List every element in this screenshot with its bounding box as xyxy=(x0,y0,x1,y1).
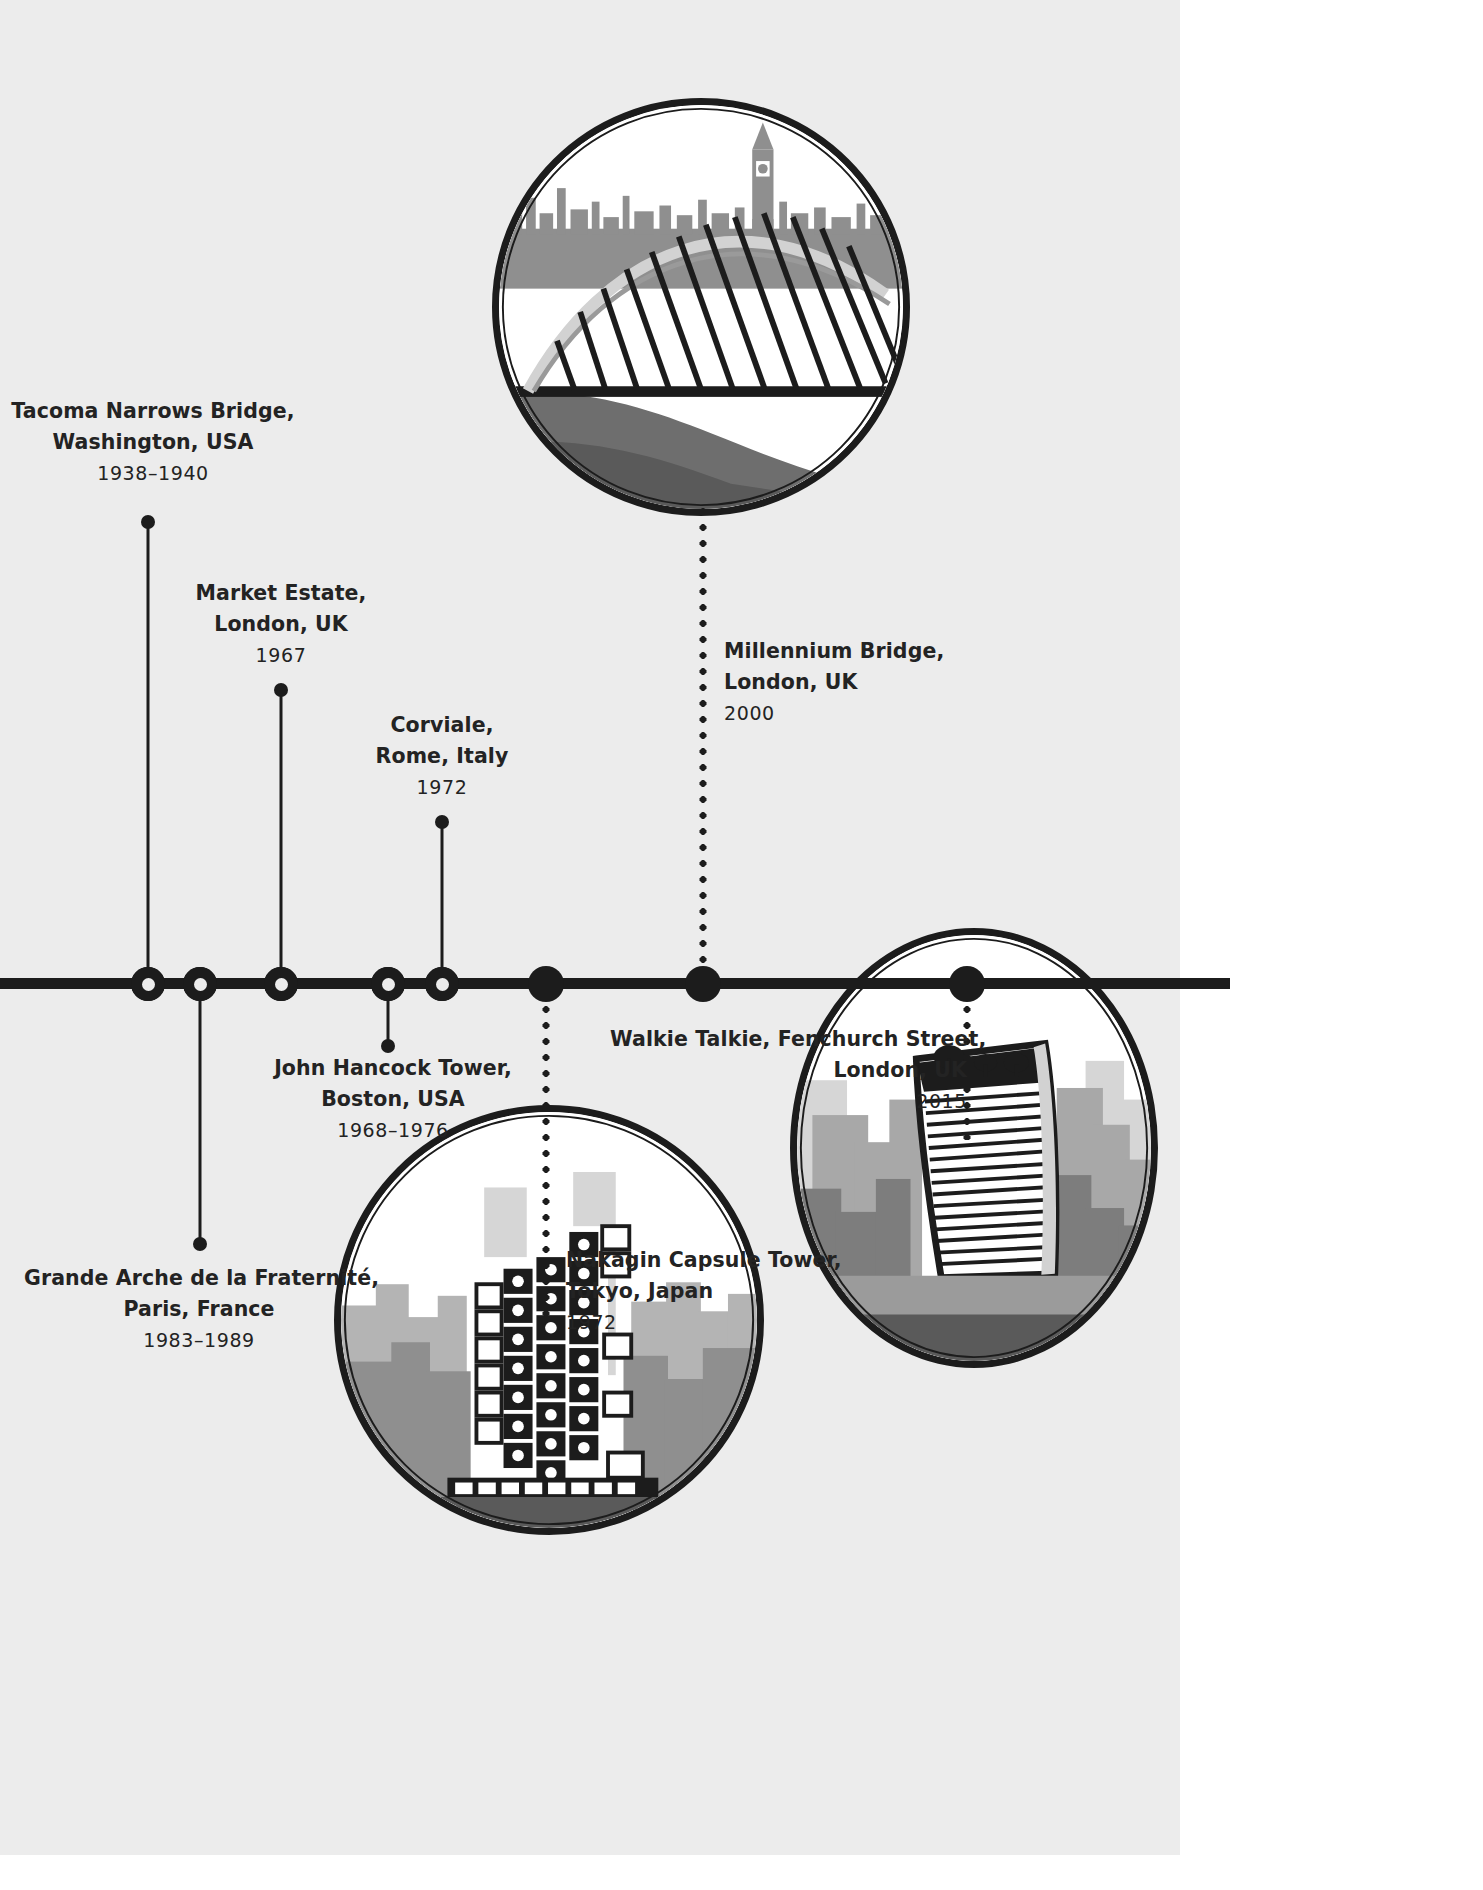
entry-name-line1: John Hancock Tower, xyxy=(253,1053,533,1084)
entry-year: 2000 xyxy=(724,698,1054,728)
entry-year: 1983–1989 xyxy=(24,1325,374,1355)
connector-tacoma-narrows-bridge xyxy=(147,520,150,984)
entry-year: 1972 xyxy=(566,1307,866,1337)
connector-nakagin-capsule-tower xyxy=(543,990,550,1320)
entry-name-line1: Walkie Talkie, Fenchurch Street, xyxy=(610,1024,967,1055)
connector-market-estate xyxy=(280,688,283,984)
entry-name-line2: Tokyo, Japan xyxy=(566,1276,866,1307)
entry-name-line2: London, UK xyxy=(724,667,1054,698)
label-john-hancock-tower: John Hancock Tower, Boston, USA 1968–197… xyxy=(253,1053,533,1145)
connector-corviale xyxy=(441,820,444,984)
entry-name-line2: Rome, Italy xyxy=(317,741,567,772)
entry-name-line2: Boston, USA xyxy=(253,1084,533,1115)
connector-endpoint-john-hancock-tower xyxy=(381,1039,395,1053)
marker-millennium-bridge[interactable] xyxy=(685,966,721,1002)
label-market-estate: Market Estate, London, UK 1967 xyxy=(151,578,411,670)
entry-year: 1968–1976 xyxy=(253,1115,533,1145)
timeline-axis-end xyxy=(1216,978,1230,989)
marker-market-estate[interactable] xyxy=(264,967,298,1001)
marker-nakagin-capsule-tower[interactable] xyxy=(528,966,564,1002)
connector-endpoint-grande-arche-de-la-fraternite xyxy=(193,1237,207,1251)
label-corviale: Corviale, Rome, Italy 1972 xyxy=(317,710,567,802)
entry-year: 1938–1940 xyxy=(8,458,298,488)
entry-name-line1: Nakagin Capsule Tower, xyxy=(566,1245,866,1276)
photo-millennium-bridge xyxy=(492,98,910,516)
label-walkie-talkie: Walkie Talkie, Fenchurch Street, London,… xyxy=(610,1024,967,1116)
entry-year: 1972 xyxy=(317,772,567,802)
entry-name-line1: Grande Arche de la Fraternité, xyxy=(24,1263,374,1294)
entry-name-line2: London, UK xyxy=(610,1055,967,1086)
marker-john-hancock-tower[interactable] xyxy=(371,967,405,1001)
entry-year: 2015 xyxy=(610,1086,967,1116)
connector-endpoint-tacoma-narrows-bridge xyxy=(141,515,155,529)
label-tacoma-narrows-bridge: Tacoma Narrows Bridge, Washington, USA 1… xyxy=(8,396,298,488)
entry-name-line1: Market Estate, xyxy=(151,578,411,609)
marker-walkie-talkie[interactable] xyxy=(949,966,985,1002)
marker-tacoma-narrows-bridge[interactable] xyxy=(131,967,165,1001)
poster-right-margin xyxy=(1180,0,1483,1890)
marker-grande-arche-de-la-fraternite[interactable] xyxy=(183,967,217,1001)
connector-endpoint-market-estate xyxy=(274,683,288,697)
connector-millennium-bridge xyxy=(700,508,707,986)
timeline-infographic: Tacoma Narrows Bridge, Washington, USA 1… xyxy=(0,0,1483,1890)
label-millennium-bridge: Millennium Bridge, London, UK 2000 xyxy=(724,636,1054,728)
label-nakagin-capsule-tower: Nakagin Capsule Tower, Tokyo, Japan 1972 xyxy=(566,1245,866,1337)
connector-endpoint-corviale xyxy=(435,815,449,829)
entry-name-line1: Millennium Bridge, xyxy=(724,636,1054,667)
entry-name-line1: Tacoma Narrows Bridge, xyxy=(8,396,298,427)
poster-bottom-margin xyxy=(0,1855,1483,1890)
connector-grande-arche-de-la-fraternite xyxy=(199,984,202,1246)
label-grande-arche-de-la-fraternite: Grande Arche de la Fraternité, Paris, Fr… xyxy=(24,1263,374,1355)
entry-name-line2: Paris, France xyxy=(24,1294,374,1325)
entry-year: 1967 xyxy=(151,640,411,670)
entry-name-line1: Corviale, xyxy=(317,710,567,741)
entry-name-line2: London, UK xyxy=(151,609,411,640)
entry-name-line2: Washington, USA xyxy=(8,427,298,458)
marker-corviale[interactable] xyxy=(425,967,459,1001)
